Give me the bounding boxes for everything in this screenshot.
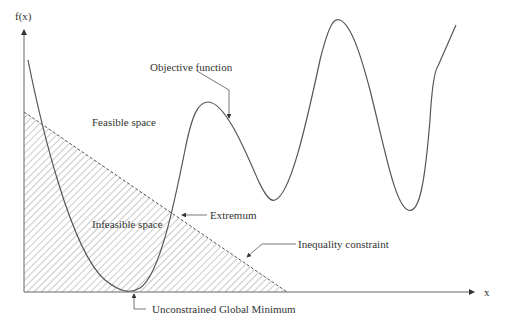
objective-function-label: Objective function <box>150 61 233 73</box>
inequality-constraint-label: Inequality constraint <box>298 238 389 250</box>
feasible-space-label: Feasible space <box>92 116 156 128</box>
global-minimum-pointer <box>134 294 146 309</box>
diagram-canvas: f(x) x Objective function Feasible space… <box>0 0 509 331</box>
inequality-constraint-pointer <box>247 244 296 257</box>
y-axis-label: f(x) <box>15 10 32 23</box>
extremum-label: Extremum <box>210 209 257 221</box>
infeasible-space-label: Infeasible space <box>92 218 163 230</box>
global-minimum-label: Unconstrained Global Minimum <box>152 303 296 315</box>
x-axis-label: x <box>484 286 490 298</box>
objective-function-pointer <box>197 71 229 118</box>
